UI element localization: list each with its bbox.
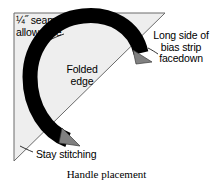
label-seam-allowance: ¼˝ seam allowance (16, 15, 61, 38)
label-stay-stitching: Stay stitching (36, 149, 96, 161)
label-folded-edge: Folded edge (58, 64, 106, 87)
figure-caption: Handle placement (0, 168, 213, 180)
handle-placement-figure: ¼˝ seam allowance Long side of bias stri… (0, 0, 213, 187)
label-long-side-bias-strip-facedown: Long side of bias strip facedown (150, 30, 212, 65)
bias-strip-end-lower (59, 128, 80, 146)
